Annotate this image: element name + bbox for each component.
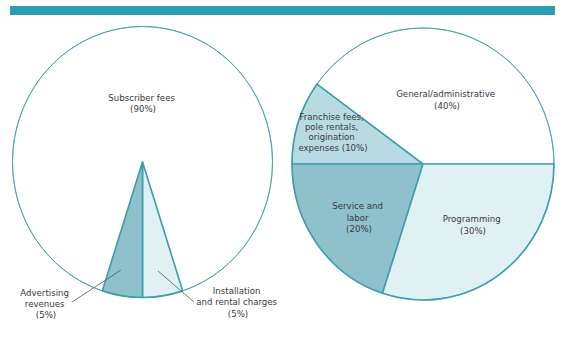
label-line: (20%) <box>346 224 372 234</box>
label-line: revenues <box>25 299 65 309</box>
label-line: General/administrative <box>396 89 495 99</box>
label-line: Subscriber fees <box>108 93 175 103</box>
label-line: Service and <box>332 201 383 211</box>
label-line: Advertising <box>20 288 69 298</box>
label-line: origination <box>309 132 355 142</box>
pie-charts-svg: Subscriber fees (90%) Advertising revenu… <box>0 0 567 338</box>
label-line: (5%) <box>228 309 248 319</box>
chart-figure: Subscriber fees (90%) Advertising revenu… <box>0 0 567 338</box>
label-line: (40%) <box>434 101 460 111</box>
label-line: Installation <box>213 286 261 296</box>
label-line: (30%) <box>460 226 486 236</box>
label-line: (90%) <box>130 104 156 114</box>
label-line: Programming <box>443 214 501 224</box>
label-line: expenses (10%) <box>298 143 367 153</box>
label-line: pole rentals, <box>305 122 358 132</box>
slice-label-franchise: Franchise fees, pole rentals, originatio… <box>298 112 367 153</box>
pie-revenue <box>12 27 272 298</box>
label-line: (5%) <box>36 310 56 320</box>
slice-label-installation: Installation and rental charges (5%) <box>196 286 280 319</box>
pie-expenses <box>292 28 554 300</box>
label-line: and rental charges <box>196 297 277 307</box>
label-line: labor <box>347 213 369 223</box>
slice-label-advertising: Advertising revenues (5%) <box>20 288 71 320</box>
label-line: Franchise fees, <box>299 112 363 122</box>
